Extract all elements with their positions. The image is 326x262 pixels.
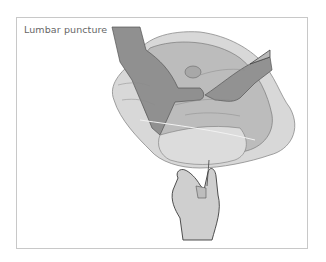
- lower-back: [158, 126, 246, 164]
- lumbar-puncture-illustration: [0, 0, 326, 262]
- hand: [172, 169, 219, 240]
